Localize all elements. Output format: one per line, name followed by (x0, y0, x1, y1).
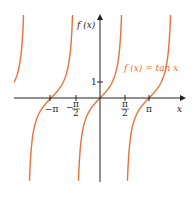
function-annotation: f (x) = tan x (123, 63, 178, 73)
y-tick-label-1: 1 (91, 77, 97, 87)
y-axis-label: f (x) (76, 20, 96, 30)
x-axis-label: x (177, 104, 182, 114)
tan-branch (14, 15, 24, 82)
svg-text:2: 2 (73, 108, 79, 118)
x-tick-label-neg-half-pi: − π 2 (66, 99, 80, 118)
x-tick-label-neg-pi: −π (45, 104, 59, 114)
svg-text:2: 2 (122, 108, 128, 118)
y-axis-arrow-icon (97, 14, 103, 20)
x-axis-arrow-icon (180, 95, 186, 101)
tan-chart: f (x) x 1 −π π − π 2 π 2 f (x) = tan x (0, 0, 196, 198)
x-tick-label-half-pi: π 2 (121, 99, 129, 118)
x-tick-label-pi: π (146, 104, 152, 114)
